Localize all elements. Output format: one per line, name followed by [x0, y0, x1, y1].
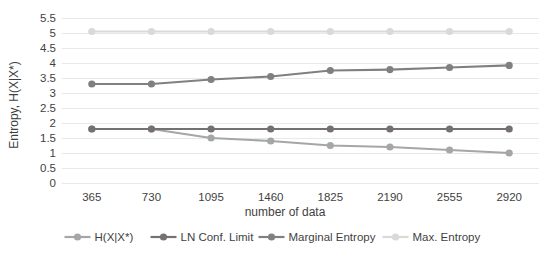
y-tick-label: 2: [50, 117, 56, 129]
series-layer: [88, 28, 513, 157]
data-point: [148, 125, 155, 132]
y-tick-label: 2.5: [40, 102, 56, 114]
y-tick-label: 4: [50, 57, 57, 69]
data-point: [446, 64, 453, 71]
series-ln-conf-limit: [88, 125, 513, 132]
x-tick-label: 730: [142, 191, 161, 203]
legend-swatch-marker: [160, 233, 167, 240]
x-axis-tick-labels: 365730109514601825219025552920: [82, 191, 522, 203]
legend-label: LN Conf. Limit: [181, 231, 255, 243]
legend-swatch-marker: [268, 233, 275, 240]
series-marginal-entropy: [88, 62, 513, 88]
series-max-entropy: [88, 28, 513, 35]
legend-item-h-x-x-[interactable]: H(X|X*): [65, 231, 134, 243]
data-point: [386, 143, 393, 150]
legend: H(X|X*)LN Conf. LimitMarginal EntropyMax…: [65, 231, 481, 243]
y-tick-label: 3: [50, 87, 56, 99]
x-tick-label: 1460: [258, 191, 284, 203]
y-axis-tick-labels: 5.554.543.532.521.510.50: [40, 12, 57, 189]
entropy-line-chart: 5.554.543.532.521.510.50 365730109514601…: [0, 0, 555, 258]
legend-item-marginal-entropy[interactable]: Marginal Entropy: [259, 231, 376, 243]
y-tick-label: 1: [50, 147, 56, 159]
y-tick-label: 5: [50, 27, 56, 39]
x-tick-label: 1095: [198, 191, 224, 203]
data-point: [148, 28, 155, 35]
data-point: [207, 134, 214, 141]
legend-label: H(X|X*): [95, 231, 134, 243]
data-point: [506, 62, 513, 69]
y-tick-label: 0: [50, 177, 56, 189]
legend-swatch-marker: [74, 233, 81, 240]
data-point: [327, 28, 334, 35]
x-tick-label: 2555: [437, 191, 463, 203]
y-tick-label: 5.5: [40, 12, 56, 24]
y-tick-label: 4.5: [40, 42, 56, 54]
legend-label: Marginal Entropy: [289, 231, 376, 243]
x-tick-label: 2920: [496, 191, 522, 203]
data-point: [446, 125, 453, 132]
data-point: [207, 125, 214, 132]
x-axis-title: number of data: [245, 205, 326, 219]
data-point: [386, 28, 393, 35]
y-tick-label: 3.5: [40, 72, 56, 84]
data-point: [88, 80, 95, 87]
data-point: [446, 28, 453, 35]
data-point: [327, 142, 334, 149]
chart-container: 5.554.543.532.521.510.50 365730109514601…: [0, 0, 555, 258]
legend-label: Max. Entropy: [413, 231, 481, 243]
legend-item-max-entropy[interactable]: Max. Entropy: [383, 231, 481, 243]
x-tick-label: 2190: [377, 191, 403, 203]
legend-item-ln-conf-limit[interactable]: LN Conf. Limit: [151, 231, 255, 243]
data-point: [386, 125, 393, 132]
data-point: [506, 149, 513, 156]
x-tick-label: 365: [82, 191, 101, 203]
gridlines: [62, 18, 539, 183]
data-point: [88, 125, 95, 132]
data-point: [207, 28, 214, 35]
data-point: [88, 28, 95, 35]
legend-swatch-marker: [392, 233, 399, 240]
data-point: [267, 28, 274, 35]
data-point: [327, 67, 334, 74]
data-point: [506, 28, 513, 35]
data-point: [327, 125, 334, 132]
y-axis-title: Entropy, H(X|X*): [7, 61, 21, 149]
data-point: [267, 73, 274, 80]
data-point: [267, 137, 274, 144]
data-point: [207, 76, 214, 83]
data-point: [446, 146, 453, 153]
data-point: [386, 66, 393, 73]
y-tick-label: 0.5: [40, 162, 56, 174]
y-tick-label: 1.5: [40, 132, 56, 144]
data-point: [506, 125, 513, 132]
data-point: [267, 125, 274, 132]
data-point: [148, 80, 155, 87]
x-tick-label: 1825: [318, 191, 344, 203]
